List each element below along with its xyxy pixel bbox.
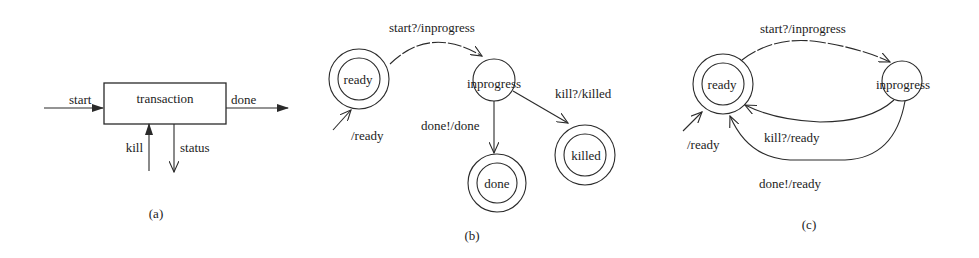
state-killed-label: killed: [571, 148, 601, 163]
done-transition-label-b: done!/done: [421, 118, 480, 133]
start-port-label: start: [69, 92, 92, 107]
start-transition-label-c: start?/inprogress: [760, 21, 846, 36]
initial-arrow-b: [333, 110, 351, 130]
state-killed-b: killed: [555, 125, 615, 185]
panel-c-state-machine: ready /ready inprogress start?/inprogres…: [683, 21, 930, 232]
panel-a-component-diagram: transaction start done kill status (a): [44, 83, 288, 221]
initial-transition-label-b: /ready: [351, 128, 384, 143]
state-ready-c: ready: [693, 54, 753, 114]
panel-b-state-machine: ready /ready inprogress start?/inprogres…: [329, 20, 615, 243]
state-diagram-figure: transaction start done kill status (a) r…: [0, 0, 979, 258]
kill-port-label: kill: [126, 140, 144, 155]
panel-c-caption: (c): [802, 217, 816, 232]
state-inprogress-b: inprogress: [467, 59, 521, 101]
state-done-b: done: [468, 154, 526, 212]
state-inprogress-c: inprogress: [876, 61, 930, 101]
kill-transition-label-c: kill?/ready: [764, 130, 820, 145]
state-ready-b: ready: [329, 49, 389, 109]
panel-a-caption: (a): [149, 206, 163, 221]
kill-transition-label-b: kill?/killed: [555, 86, 612, 101]
state-inprogress-label: inprogress: [467, 76, 521, 91]
panel-b-caption: (b): [464, 228, 479, 243]
start-transition-label-b: start?/inprogress: [389, 20, 475, 35]
start-transition-arrow-b: [390, 42, 482, 64]
figure-canvas: transaction start done kill status (a) r…: [0, 0, 979, 258]
start-transition-arrow-c: [742, 40, 890, 62]
initial-transition-label-c: /ready: [687, 137, 720, 152]
status-port-label: status: [180, 140, 210, 155]
done-port-label: done: [231, 92, 257, 107]
state-done-label: done: [484, 176, 510, 191]
initial-arrow-c: [683, 112, 702, 131]
state-inprogress-label-c: inprogress: [876, 77, 930, 92]
state-ready-label: ready: [344, 72, 373, 87]
transaction-label: transaction: [136, 91, 194, 106]
done-transition-label-c: done!/ready: [759, 176, 822, 191]
state-ready-label-c: ready: [708, 77, 737, 92]
kill-transition-arrow-c: [745, 100, 894, 122]
